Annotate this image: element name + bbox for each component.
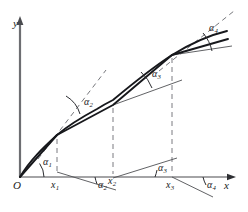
node-label-x1: x1 bbox=[51, 180, 59, 192]
angle-label-alpha2: α2 bbox=[84, 97, 93, 109]
angle-arc-axis-alpha4 bbox=[203, 177, 206, 185]
axis-ray-alpha3 bbox=[113, 158, 177, 178]
origin-label: O bbox=[13, 180, 21, 191]
x-axis-label: x bbox=[224, 180, 229, 191]
euler-method-diagram: y x O x1 x2 x3 α1 α2 α3 α4 α2 α3 α4 bbox=[0, 0, 248, 212]
angle-label-alpha1: α1 bbox=[43, 157, 52, 169]
angle-arc-axis-alpha3 bbox=[155, 170, 157, 177]
axis-angle-label-alpha3: α3 bbox=[158, 163, 167, 175]
angle-label-alpha4: α4 bbox=[209, 23, 218, 35]
node-label-x2: x2 bbox=[108, 176, 116, 188]
y-axis-label: y bbox=[13, 18, 18, 29]
axis-angle-label-alpha4: α4 bbox=[207, 180, 216, 192]
angle-arcs-on-curve bbox=[40, 33, 212, 177]
axis-angle-label-alpha2: α2 bbox=[98, 180, 107, 192]
axis-group bbox=[17, 16, 236, 180]
exact-solution-curve bbox=[20, 31, 227, 177]
angle-arc-axis-alpha2 bbox=[95, 177, 97, 184]
node-label-x3: x3 bbox=[166, 180, 174, 192]
angle-label-alpha3: α3 bbox=[152, 69, 161, 81]
angle-arc-alpha2 bbox=[66, 96, 80, 114]
